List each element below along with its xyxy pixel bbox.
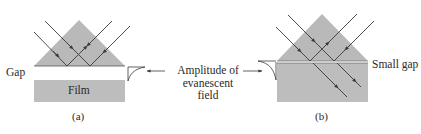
panel-b [258,14,374,102]
evanescent-label-line3: field [168,89,248,102]
gap-label-a: Gap [6,66,25,79]
evanescent-field-label: Amplitude of evanescent field [168,64,248,102]
substrate-b [277,63,368,102]
film-label-a: Film [68,84,90,97]
prism-a [34,20,125,66]
prism-b [277,14,368,61]
evanescent-label-line1: Amplitude of [168,64,248,77]
caption-a: (a) [72,110,84,122]
evanescent-label-line2: evanescent [168,77,248,90]
caption-b: (b) [315,110,328,122]
evanescent-curve-b [258,61,276,80]
evanescent-curve-a [128,67,145,81]
small-gap-label-b: Small gap [372,58,418,71]
